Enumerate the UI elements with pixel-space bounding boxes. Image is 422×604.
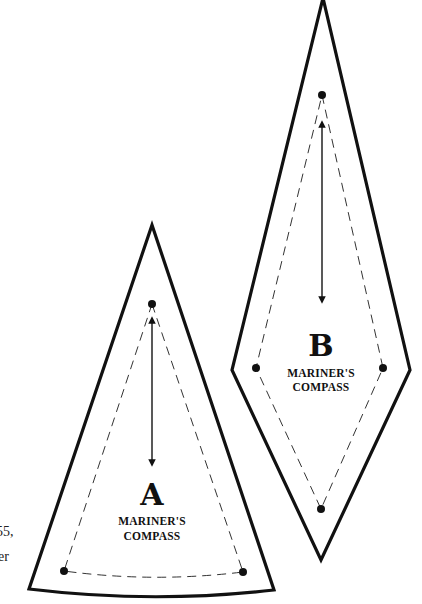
piece-b-dot-right [379,364,387,372]
piece-b-letter: B [308,328,333,363]
piece-b-name-line-2: COMPASS [293,381,350,393]
piece-b-name-line-1: MARINER'S [287,367,355,379]
piece-a-name-line-1: MARINER'S [118,515,186,527]
piece-b-seam-line [256,95,383,509]
piece-a-letter: A [139,477,164,512]
pattern-canvas: 55, er B MARINER'S COMPASS A MARINER'S C… [0,0,422,604]
piece-a-dot-bottom-left [60,567,68,575]
piece-b-template: B MARINER'S COMPASS [232,0,410,560]
piece-b-dot-bottom [317,505,325,513]
piece-b-dot-left [252,364,260,372]
piece-b-dot-top [318,91,326,99]
piece-a-dot-bottom-right [239,568,247,576]
piece-a-dot-top [148,300,156,308]
piece-b-cut-line [232,0,410,560]
cropped-text-line-2: er [0,549,9,564]
piece-a-name-line-2: COMPASS [124,530,181,542]
cropped-text-line-1: 55, [0,524,14,539]
piece-a-template: A MARINER'S COMPASS [29,225,274,597]
